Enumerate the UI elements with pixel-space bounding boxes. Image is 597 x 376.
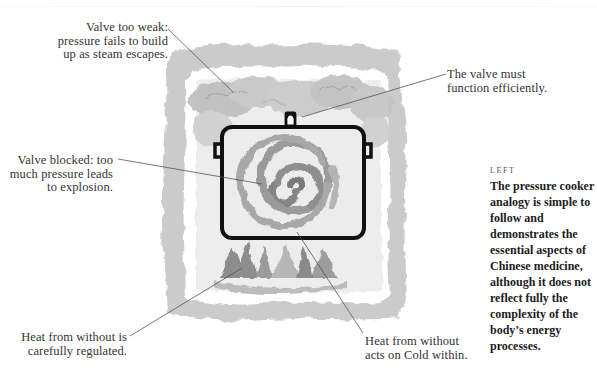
callout-line: Heat from without is (0, 331, 127, 345)
callout-line: up as steam escapes. (40, 48, 168, 62)
caption-kicker: LEFT (490, 166, 595, 175)
callout-valve-too-weak: Valve too weak: pressure fails to build … (40, 21, 168, 62)
callout-line: to explosion. (0, 181, 113, 195)
caption-line: demonstrates the (490, 226, 595, 242)
caption-body: The pressure cooker analogy is simple to… (490, 178, 595, 354)
callout-heat-acts-on-cold: Heat from without acts on Cold within. (365, 335, 495, 362)
caption-line: body’s energy (490, 322, 595, 338)
callout-line: function efficiently. (447, 82, 577, 96)
caption-line: follow and (490, 210, 595, 226)
callout-line: much pressure leads (0, 168, 113, 182)
callout-line: Heat from without (365, 335, 495, 349)
callout-valve-efficient: The valve must function efficiently. (447, 68, 577, 95)
caption-line: Chinese medicine, (490, 258, 595, 274)
book-page: Valve too weak: pressure fails to build … (0, 0, 597, 376)
callout-line: The valve must (447, 68, 577, 82)
callout-line: acts on Cold within. (365, 349, 495, 363)
callout-line: carefully regulated. (0, 345, 127, 359)
callout-line: Valve too weak: (40, 21, 168, 35)
caption-line: The pressure cooker (490, 178, 595, 194)
caption-line: complexity of the (490, 306, 595, 322)
callout-line: Valve blocked: too (0, 154, 113, 168)
callout-heat-regulated: Heat from without is carefully regulated… (0, 331, 127, 358)
caption-line: analogy is simple to (490, 194, 595, 210)
caption-line: processes. (490, 338, 595, 354)
caption-line: reflect fully the (490, 290, 595, 306)
callout-line: pressure fails to build (40, 35, 168, 49)
callout-valve-blocked: Valve blocked: too much pressure leads t… (0, 154, 113, 195)
caption-line: essential aspects of (490, 242, 595, 258)
caption-line: although it does not (490, 274, 595, 290)
figure-caption: LEFT The pressure cooker analogy is simp… (490, 166, 595, 354)
pressure-valve (286, 113, 295, 126)
